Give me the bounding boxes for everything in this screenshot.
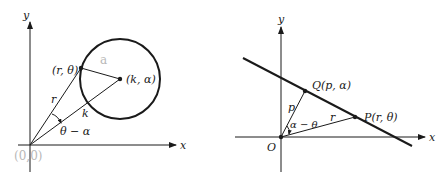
angle-label: α − θ [290, 119, 318, 130]
angle-arc-icon [287, 126, 289, 134]
x-axis-label: x [429, 131, 436, 144]
segment-origin-to-q [281, 91, 305, 137]
center-distance-label: k [82, 107, 89, 120]
pencil-radius-note: a [100, 53, 107, 67]
segment-point-to-center [81, 68, 120, 79]
line [243, 58, 412, 146]
radius-segment-label: r [51, 93, 57, 106]
pencil-origin-note: (0,0) [14, 149, 42, 163]
y-axis-label: y [277, 13, 285, 26]
point-center [118, 77, 122, 81]
center-label: (k, α) [126, 73, 156, 86]
angle-arc-icon [52, 114, 61, 123]
perpendicular-label: p [288, 101, 295, 114]
radius-segment-label: r [330, 111, 336, 124]
p-label: P(r, θ) [363, 111, 398, 124]
x-axis-label: x [180, 139, 187, 152]
y-axis-label: y [22, 9, 30, 22]
angle-label: θ − α [60, 125, 91, 138]
point-r-theta [79, 66, 83, 70]
point-p [353, 115, 357, 119]
diagram-canvas: x y (r, θ) (k, α) r k θ − α (0,0) a x y … [0, 0, 441, 184]
point-origin [279, 135, 283, 139]
point-r-theta-label: (r, θ) [52, 64, 78, 77]
q-label: Q(p, α) [312, 79, 351, 92]
origin-label: O [267, 141, 276, 154]
figure-line-polar: x y O Q(p, α) P(r, θ) p r α − θ [235, 13, 436, 172]
figure-circle-polar: x y (r, θ) (k, α) r k θ − α (0,0) a [14, 9, 187, 172]
point-q [303, 89, 307, 93]
